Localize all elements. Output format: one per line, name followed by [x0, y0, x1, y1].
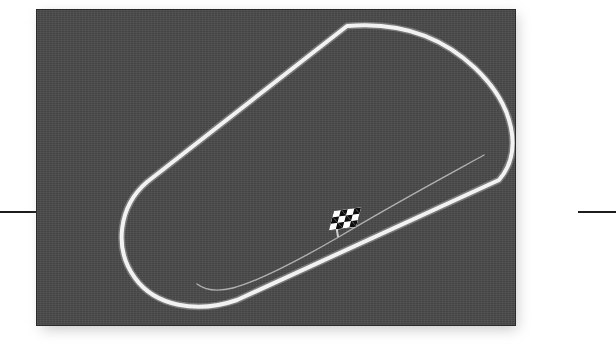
right-horizontal-rule: [578, 211, 616, 213]
circuit-map-page: Oval race circuit layout: [0, 0, 616, 358]
track-diagram: [37, 10, 516, 326]
left-horizontal-rule: [0, 211, 38, 213]
map-panel: [36, 9, 516, 326]
main-track-path: [122, 25, 513, 307]
